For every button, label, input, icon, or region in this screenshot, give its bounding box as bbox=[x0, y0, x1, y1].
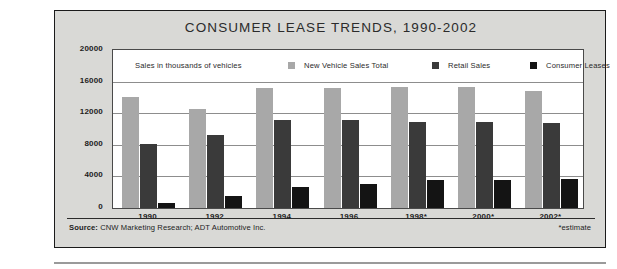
bar bbox=[274, 120, 291, 208]
bar bbox=[427, 180, 444, 208]
bar-group bbox=[458, 50, 511, 208]
bar bbox=[225, 196, 242, 208]
bar bbox=[561, 179, 578, 208]
chart-title: CONSUMER LEASE TRENDS, 1990-2002 bbox=[55, 20, 607, 35]
x-axis-tick-label: 1992 bbox=[190, 212, 240, 221]
x-axis-tick-label: 1996 bbox=[324, 212, 374, 221]
source-text: CNW Marketing Research; ADT Automotive I… bbox=[100, 223, 265, 232]
y-axis-tick-label: 16000 bbox=[59, 76, 103, 85]
source-label: Source: bbox=[69, 223, 98, 232]
x-axis-tick-label: 1990 bbox=[123, 212, 173, 221]
bar bbox=[140, 144, 157, 208]
bar bbox=[342, 120, 359, 208]
bar bbox=[122, 97, 139, 208]
source-note: Source: CNW Marketing Research; ADT Auto… bbox=[69, 223, 266, 232]
x-axis-tick-label: 2000* bbox=[458, 212, 508, 221]
bar-group bbox=[256, 50, 309, 208]
bar bbox=[525, 91, 542, 208]
bar bbox=[494, 180, 511, 208]
bar bbox=[458, 87, 475, 208]
bar bbox=[158, 203, 175, 208]
bar-group bbox=[324, 50, 377, 208]
y-axis-tick-label: 4000 bbox=[59, 170, 103, 179]
y-axis-tick-label: 12000 bbox=[59, 107, 103, 116]
bar bbox=[543, 123, 560, 208]
bar bbox=[476, 122, 493, 208]
bar-group bbox=[525, 50, 578, 208]
x-axis-tick-label: 2002* bbox=[525, 212, 575, 221]
chart-figure: CONSUMER LEASE TRENDS, 1990-2002 2000016… bbox=[0, 0, 617, 269]
footer-divider bbox=[67, 218, 595, 219]
bar bbox=[409, 122, 426, 208]
bar bbox=[324, 88, 341, 208]
chart-panel: CONSUMER LEASE TRENDS, 1990-2002 2000016… bbox=[54, 10, 606, 248]
bar-group bbox=[122, 50, 175, 208]
y-axis-tick-label: 8000 bbox=[59, 139, 103, 148]
plot-area: Sales in thousands of vehicles New Vehic… bbox=[112, 49, 584, 209]
y-axis-tick-label: 20000 bbox=[59, 44, 103, 53]
y-axis-tick-label: 0 bbox=[59, 202, 103, 211]
estimate-note: *estimate bbox=[558, 223, 591, 232]
bar bbox=[292, 187, 309, 208]
bar bbox=[207, 135, 224, 208]
bar bbox=[391, 87, 408, 208]
x-axis-tick-label: 1994 bbox=[257, 212, 307, 221]
bar bbox=[256, 88, 273, 208]
x-axis-tick-label: 1998* bbox=[391, 212, 441, 221]
bar bbox=[189, 109, 206, 208]
bar-group bbox=[391, 50, 444, 208]
bar bbox=[360, 184, 377, 208]
bar-group bbox=[189, 50, 242, 208]
bottom-divider bbox=[54, 262, 606, 264]
